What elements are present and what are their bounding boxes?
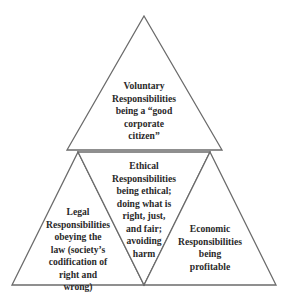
ethical-line: Ethical <box>94 160 194 173</box>
legal-line: right and <box>28 269 128 282</box>
voluntary-line: Responsibilities <box>94 93 194 106</box>
ethical-line: right, just, <box>94 210 194 223</box>
economic-line: being <box>160 248 260 261</box>
voluntary-line: corporate <box>94 118 194 131</box>
voluntary-line: citizen” <box>94 130 194 143</box>
ethical-line: being ethical; <box>94 185 194 198</box>
ethical-line: doing what is <box>94 198 194 211</box>
ethical-line: Responsibilities <box>94 173 194 186</box>
voluntary-label: Voluntary Responsibilities being a “good… <box>94 80 194 143</box>
economic-label: Economic Responsibilities being profitab… <box>160 223 260 273</box>
legal-line: wrong) <box>28 281 128 294</box>
voluntary-line: Voluntary <box>94 80 194 93</box>
economic-line: Economic <box>160 223 260 236</box>
economic-line: profitable <box>160 261 260 274</box>
voluntary-line: being a “good <box>94 105 194 118</box>
economic-line: Responsibilities <box>160 236 260 249</box>
